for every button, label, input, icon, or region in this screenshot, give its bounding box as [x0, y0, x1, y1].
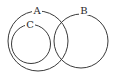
- circle-c: [12, 25, 51, 64]
- circle-b: [54, 14, 108, 68]
- label-c: C: [26, 19, 34, 30]
- label-b: B: [80, 5, 87, 16]
- venn-diagram: A B C: [0, 0, 117, 73]
- label-a: A: [32, 5, 41, 16]
